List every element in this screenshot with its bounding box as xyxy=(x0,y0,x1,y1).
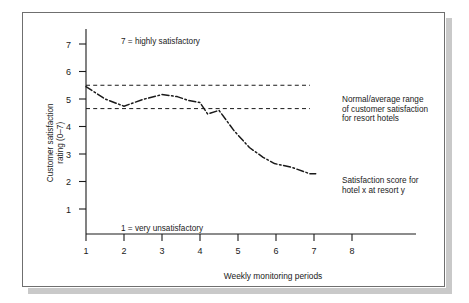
scale-note-top: 7 = highly satisfactory xyxy=(121,37,200,47)
svg-text:4: 4 xyxy=(66,122,71,132)
annotation-satisfaction-series: Satisfaction score for hotel x at resort… xyxy=(342,176,418,195)
svg-text:5: 5 xyxy=(235,246,240,256)
svg-text:6: 6 xyxy=(273,246,278,256)
svg-text:5: 5 xyxy=(66,95,71,105)
svg-text:1: 1 xyxy=(83,246,88,256)
svg-text:3: 3 xyxy=(159,246,164,256)
annotation-satisfaction-series-line2: hotel x at resort y xyxy=(342,186,418,196)
svg-text:7: 7 xyxy=(66,40,71,50)
svg-text:6: 6 xyxy=(66,67,71,77)
annotation-normal-range-line1: Normal/average range xyxy=(342,95,428,105)
x-axis-ticks xyxy=(86,234,352,241)
svg-text:7: 7 xyxy=(311,246,316,256)
y-axis-title: Customer satisfaction rating (0–7) xyxy=(46,83,66,203)
figure-container: 7 6 5 4 3 2 1 1 2 3 xyxy=(0,0,469,303)
svg-text:1: 1 xyxy=(66,205,71,215)
y-axis-tick-labels: 7 6 5 4 3 2 1 xyxy=(66,40,71,215)
figure-frame: 7 6 5 4 3 2 1 1 2 3 xyxy=(22,12,445,287)
scale-note-bottom: 1 = very unsatisfactory xyxy=(121,224,203,234)
annotation-normal-range-line3: for resort hotels xyxy=(342,114,428,124)
annotation-normal-range-line2: of customer satisfaction xyxy=(342,105,428,115)
svg-text:2: 2 xyxy=(66,177,71,187)
y-axis-title-line1: Customer satisfaction xyxy=(46,103,55,182)
figure-shadow-bottom xyxy=(28,288,452,294)
svg-text:3: 3 xyxy=(66,150,71,160)
x-axis-title: Weekly monitoring periods xyxy=(163,271,383,281)
svg-text:2: 2 xyxy=(121,246,126,256)
y-axis-title-line2: rating (0–7) xyxy=(56,122,65,164)
y-axis-ticks xyxy=(79,44,86,209)
x-axis-tick-labels: 1 2 3 4 5 6 7 8 xyxy=(83,246,354,256)
satisfaction-score-line xyxy=(86,87,316,174)
annotation-satisfaction-series-line1: Satisfaction score for xyxy=(342,176,418,186)
line-chart-plot: 7 6 5 4 3 2 1 1 2 3 xyxy=(23,13,444,286)
svg-text:4: 4 xyxy=(197,246,202,256)
svg-text:8: 8 xyxy=(349,246,354,256)
annotation-normal-range: Normal/average range of customer satisfa… xyxy=(342,95,428,124)
figure-shadow-right xyxy=(446,18,452,293)
